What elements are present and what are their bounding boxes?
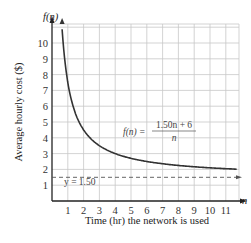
svg-text:2: 2 <box>43 164 48 175</box>
grid <box>52 24 239 201</box>
function-curve <box>62 29 237 169</box>
svg-text:10: 10 <box>38 38 49 49</box>
svg-text:3: 3 <box>43 149 48 160</box>
svg-text:6: 6 <box>43 101 48 112</box>
axes <box>50 16 248 204</box>
chart: 123456789101112345678910 f(n) n Time (hr… <box>0 0 251 243</box>
equation-annotation: f(n) = 1.50n + 6 n <box>123 120 196 143</box>
x-axis-symbol: n <box>242 195 247 206</box>
svg-text:5: 5 <box>43 117 48 128</box>
svg-text:1: 1 <box>43 180 48 191</box>
x-axis-label: Time (hr) the network is used <box>85 215 210 227</box>
svg-text:1: 1 <box>65 205 70 216</box>
svg-text:7: 7 <box>43 85 48 96</box>
svg-text:9: 9 <box>43 54 48 65</box>
svg-text:f(n) =: f(n) = <box>123 127 146 138</box>
svg-text:8: 8 <box>43 70 48 81</box>
y-axis-label: Average hourly cost ($) <box>13 62 25 162</box>
svg-text:11: 11 <box>221 205 231 216</box>
asymptote-label: y = 1.50 <box>64 177 96 187</box>
svg-text:n: n <box>172 133 177 143</box>
y-axis-symbol: f(n) <box>43 11 59 23</box>
svg-text:1.50n + 6: 1.50n + 6 <box>156 120 192 130</box>
svg-text:4: 4 <box>43 133 49 144</box>
